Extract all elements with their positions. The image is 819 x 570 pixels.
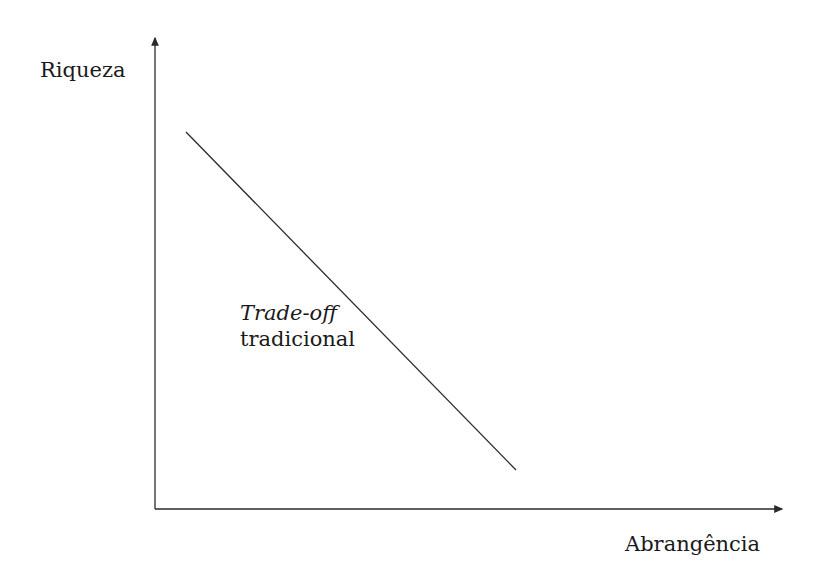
curve-label-line2: tradicional bbox=[240, 327, 355, 351]
diagram-canvas bbox=[0, 0, 819, 570]
curve-label-hyphen: - bbox=[302, 301, 309, 325]
y-axis-label: Riqueza bbox=[40, 58, 126, 82]
curve-label-off: off bbox=[310, 301, 338, 325]
x-axis-label: Abrangência bbox=[625, 532, 760, 556]
curve-label: Trade-off tradicional bbox=[240, 300, 355, 352]
curve-label-trade: Trade bbox=[240, 301, 302, 325]
